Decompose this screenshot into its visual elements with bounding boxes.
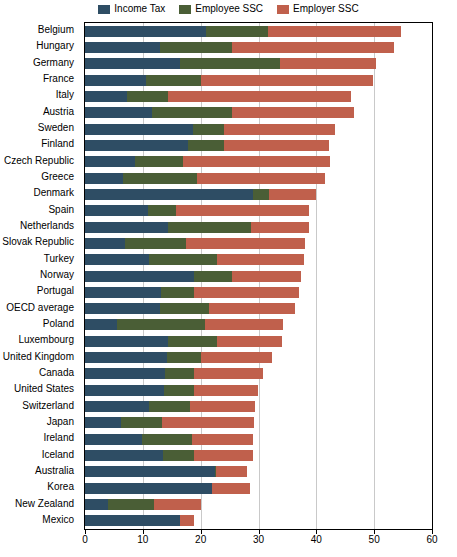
bar-row bbox=[85, 287, 299, 298]
bar-row bbox=[85, 189, 316, 200]
bar-segment bbox=[85, 124, 193, 135]
y-axis-label: New Zealand bbox=[15, 499, 74, 509]
bar-row bbox=[85, 156, 330, 167]
y-axis-label: OECD average bbox=[6, 303, 74, 313]
bar-segment bbox=[197, 173, 325, 184]
y-axis-label: United Kingdom bbox=[3, 352, 74, 362]
bar-segment bbox=[162, 417, 254, 428]
bar-row bbox=[85, 483, 250, 494]
bar-row bbox=[85, 254, 304, 265]
bar-segment bbox=[85, 368, 165, 379]
x-axis-label: 20 bbox=[195, 535, 206, 545]
bar-row bbox=[85, 271, 301, 282]
bar-segment bbox=[168, 91, 351, 102]
bar-segment bbox=[232, 107, 353, 118]
bar-segment bbox=[216, 466, 248, 477]
bar-row bbox=[85, 205, 309, 216]
y-axis-label: Iceland bbox=[42, 450, 74, 460]
bar-segment bbox=[85, 417, 121, 428]
bar-segment bbox=[85, 450, 163, 461]
y-axis-label: Mexico bbox=[42, 515, 74, 525]
bar-segment bbox=[85, 515, 180, 526]
y-axis-label: Czech Republic bbox=[4, 156, 74, 166]
x-axis-label: 10 bbox=[137, 535, 148, 545]
bar-segment bbox=[206, 26, 268, 37]
bar-segment bbox=[142, 434, 192, 445]
bar-row bbox=[85, 319, 283, 330]
bar-segment bbox=[85, 222, 168, 233]
bar-segment bbox=[85, 189, 253, 200]
y-axis-label: Netherlands bbox=[20, 221, 74, 231]
bar-segment bbox=[125, 238, 186, 249]
y-axis-label: Austria bbox=[43, 107, 74, 117]
bar-segment bbox=[163, 450, 194, 461]
bar-segment bbox=[232, 42, 393, 53]
y-axis-label: Poland bbox=[43, 319, 74, 329]
y-axis-label: Korea bbox=[47, 482, 74, 492]
bar-segment bbox=[193, 124, 224, 135]
bar-row bbox=[85, 385, 258, 396]
y-axis-label: Luxembourg bbox=[18, 335, 74, 345]
bar-row bbox=[85, 238, 305, 249]
bar-row bbox=[85, 26, 401, 37]
legend-swatch-icon bbox=[98, 5, 110, 14]
x-axis-label: 50 bbox=[369, 535, 380, 545]
bar-segment bbox=[232, 271, 301, 282]
legend-item: Employer SSC bbox=[277, 4, 359, 14]
bar-segment bbox=[269, 189, 316, 200]
legend-label: Employer SSC bbox=[293, 4, 359, 14]
y-axis-label: Belgium bbox=[38, 25, 74, 35]
legend-item: Income Tax bbox=[98, 4, 165, 14]
y-axis-labels: BelgiumHungaryGermanyFranceItalyAustriaS… bbox=[0, 22, 80, 530]
bar-row bbox=[85, 499, 201, 510]
y-axis-label: Portugal bbox=[37, 286, 74, 296]
bar-segment bbox=[176, 205, 309, 216]
y-axis-label: Hungary bbox=[36, 41, 74, 51]
bar-row bbox=[85, 222, 309, 233]
bar-row bbox=[85, 42, 394, 53]
bar-segment bbox=[168, 222, 251, 233]
y-axis-label: Norway bbox=[40, 270, 74, 280]
bar-segment bbox=[85, 499, 108, 510]
bar-segment bbox=[148, 205, 176, 216]
bar-segment bbox=[149, 254, 218, 265]
bar-segment bbox=[85, 466, 215, 477]
bar-segment bbox=[160, 303, 209, 314]
bar-segment bbox=[85, 483, 212, 494]
bar-segment bbox=[217, 254, 303, 265]
bar-segment bbox=[201, 75, 373, 86]
bar-segment bbox=[85, 401, 149, 412]
y-axis-label: United States bbox=[14, 384, 74, 394]
bar-segment bbox=[85, 303, 160, 314]
x-axis-label: 0 bbox=[82, 535, 88, 545]
bar-segment bbox=[85, 434, 142, 445]
y-axis-label: Finland bbox=[41, 139, 74, 149]
chart-container: Income TaxEmployee SSCEmployer SSC Belgi… bbox=[0, 0, 457, 557]
y-axis-label: Sweden bbox=[38, 123, 74, 133]
y-axis-label: Japan bbox=[47, 417, 74, 427]
bar-segment bbox=[194, 271, 232, 282]
bar-segment bbox=[85, 140, 188, 151]
y-axis-label: Denmark bbox=[33, 188, 74, 198]
bar-segment bbox=[194, 287, 299, 298]
bar-segment bbox=[152, 107, 233, 118]
bar-segment bbox=[85, 238, 125, 249]
legend-label: Employee SSC bbox=[195, 4, 263, 14]
x-axis-label: 40 bbox=[311, 535, 322, 545]
bar-segment bbox=[123, 173, 197, 184]
bar-segment bbox=[85, 254, 149, 265]
y-axis-label: France bbox=[43, 74, 74, 84]
y-axis-label: Canada bbox=[39, 368, 74, 378]
y-axis-label: Switzerland bbox=[22, 401, 74, 411]
legend-swatch-icon bbox=[277, 5, 289, 14]
chart-legend: Income TaxEmployee SSCEmployer SSC bbox=[0, 4, 457, 14]
bar-segment bbox=[85, 91, 127, 102]
bar-segment bbox=[194, 385, 258, 396]
bar-row bbox=[85, 58, 376, 69]
bar-segment bbox=[209, 303, 295, 314]
bar-segment bbox=[268, 26, 401, 37]
y-axis-label: Turkey bbox=[44, 254, 74, 264]
bar-segment bbox=[212, 483, 250, 494]
bar-segment bbox=[217, 336, 282, 347]
bar-segment bbox=[85, 173, 123, 184]
